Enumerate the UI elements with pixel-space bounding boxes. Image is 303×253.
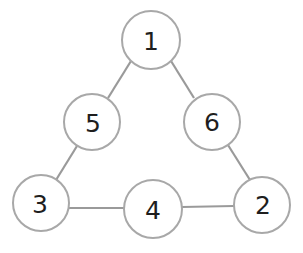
node-3: 3 [13,175,69,231]
edge-4-2 [182,206,234,207]
edge-5-3 [56,146,77,180]
node-label: 4 [145,196,161,225]
edge-1-6 [171,61,194,98]
edge-6-2 [228,145,250,180]
node-4: 4 [124,180,182,238]
node-label: 2 [255,191,271,220]
node-2: 2 [234,177,290,233]
node-label: 3 [32,190,48,219]
node-label: 5 [85,109,101,138]
triangle-diagram: 1 5 6 3 4 2 [0,0,303,253]
node-1: 1 [122,11,180,69]
node-label: 6 [204,108,220,137]
node-label: 1 [143,27,159,56]
node-6: 6 [184,94,240,150]
node-5: 5 [64,94,120,150]
edge-1-5 [108,61,131,98]
